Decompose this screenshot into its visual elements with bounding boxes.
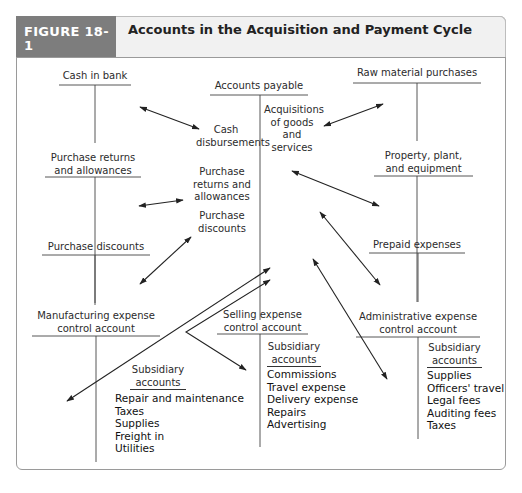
account-cash-in-bank: Cash in bank — [60, 70, 130, 83]
account-manufacturing-expense: Manufacturing expensecontrol account — [32, 310, 160, 335]
account-property-plant: Property, plant,and equipment — [374, 150, 473, 175]
account-raw-material-purchases: Raw material purchases — [353, 67, 481, 80]
flow-acquisitions: Acquisitionsof goodsandservices — [264, 104, 320, 154]
account-purchase-returns: Purchase returnsand allowances — [45, 152, 141, 177]
account-administrative-expense: Administrative expensecontrol account — [356, 311, 480, 336]
selling-subsidiary-list: CommissionsTravel expenseDelivery expens… — [267, 368, 358, 431]
account-prepaid-expenses: Prepaid expenses — [369, 239, 465, 252]
selling-subsidiary-heading: Subsidiaryaccounts — [267, 341, 321, 367]
account-accounts-payable: Accounts payable — [210, 80, 308, 93]
administrative-subsidiary-heading: Subsidiaryaccounts — [427, 342, 482, 368]
manufacturing-subsidiary-list: Repair and maintenanceTaxesSuppliesFreig… — [115, 392, 244, 455]
manufacturing-subsidiary-heading: Subsidiaryaccounts — [130, 364, 186, 390]
administrative-subsidiary-list: SuppliesOfficers' travelLegal feesAuditi… — [427, 369, 504, 432]
flow-purchase-returns: Purchasereturns andallowances — [192, 166, 252, 204]
account-purchase-discounts: Purchase discounts — [42, 241, 150, 254]
flow-cash-disbursements: Cashdisbursements — [196, 124, 256, 149]
flow-purchase-discounts: Purchasediscounts — [192, 210, 252, 235]
account-selling-expense: Selling expensecontrol account — [217, 309, 308, 334]
